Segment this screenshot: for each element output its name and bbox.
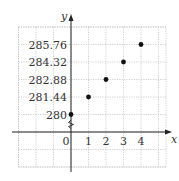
x-axis-label: x xyxy=(171,133,178,146)
data-point xyxy=(121,60,126,65)
y-axis-arrow-icon xyxy=(69,14,74,21)
x-tick-label: 3 xyxy=(120,135,127,148)
y-tick-label: 281.44 xyxy=(29,91,68,104)
y-tick-labels: 280281.44282.88284.32285.76 xyxy=(29,39,68,122)
x-tick-label: 0 xyxy=(63,135,70,148)
y-axis-label: y xyxy=(60,10,68,23)
chart-svg: x y 01234 280281.44282.88284.32285.76 xyxy=(0,0,179,181)
y-tick-label: 284.32 xyxy=(29,56,68,69)
data-point xyxy=(139,42,144,47)
y-tick-label: 280 xyxy=(46,109,67,122)
data-point xyxy=(69,112,74,117)
x-tick-label: 1 xyxy=(85,135,92,148)
scatter-chart: x y 01234 280281.44282.88284.32285.76 xyxy=(0,0,179,181)
x-tick-label: 2 xyxy=(103,135,110,148)
data-point xyxy=(104,77,109,82)
data-point xyxy=(86,95,91,100)
y-tick-label: 282.88 xyxy=(29,74,68,87)
y-tick-label: 285.76 xyxy=(29,39,68,52)
x-tick-labels: 01234 xyxy=(63,135,145,148)
x-tick-label: 4 xyxy=(138,135,145,148)
